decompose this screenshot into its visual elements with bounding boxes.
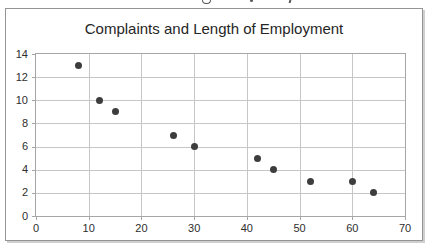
gridline-vertical [300, 54, 301, 216]
data-point [112, 108, 119, 115]
y-tick-label: 8 [2, 117, 28, 130]
x-tick-mark [36, 217, 37, 220]
data-point [349, 178, 356, 185]
x-tick-label: 60 [332, 222, 372, 234]
y-tick-label: 12 [2, 71, 28, 84]
x-tick-label: 30 [174, 222, 214, 234]
y-tick-mark [32, 123, 35, 124]
screenshot-canvas: Complaints and Length of Employment 0102… [0, 0, 431, 249]
x-tick-label: 50 [280, 222, 320, 234]
gridline-vertical [141, 54, 142, 216]
data-point [307, 178, 314, 185]
gridline-horizontal [36, 77, 405, 78]
text-descender-mark [289, 0, 292, 3]
y-tick-mark [32, 54, 35, 55]
data-point [254, 155, 261, 162]
data-point [75, 62, 82, 69]
y-tick-mark [32, 77, 35, 78]
y-tick-mark [32, 170, 35, 171]
y-tick-mark [32, 100, 35, 101]
y-tick-mark [32, 147, 35, 148]
y-tick-label: 2 [2, 186, 28, 199]
data-point [191, 143, 198, 150]
gridline-horizontal [36, 193, 405, 194]
x-tick-label: 10 [69, 222, 109, 234]
x-tick-mark [405, 217, 406, 220]
y-tick-label: 14 [2, 48, 28, 61]
gridline-horizontal [36, 147, 405, 148]
plot-area: 01020304050607002468101214 [35, 53, 406, 217]
y-tick-label: 10 [2, 94, 28, 107]
y-tick-label: 4 [2, 163, 28, 176]
x-tick-mark [352, 217, 353, 220]
x-tick-mark [194, 217, 195, 220]
gridline-vertical [89, 54, 90, 216]
x-tick-label: 40 [227, 222, 267, 234]
gridline-vertical [247, 54, 248, 216]
gridline-vertical [352, 54, 353, 216]
x-tick-label: 0 [16, 222, 56, 234]
y-tick-label: 0 [2, 210, 28, 223]
gridline-horizontal [36, 170, 405, 171]
x-tick-mark [141, 217, 142, 220]
x-tick-label: 70 [385, 222, 425, 234]
y-tick-mark [32, 216, 35, 217]
chart-title: Complaints and Length of Employment [6, 20, 422, 37]
data-point [170, 132, 177, 139]
data-point [370, 189, 377, 196]
data-point [270, 166, 277, 173]
x-tick-mark [247, 217, 248, 220]
gridline-vertical [194, 54, 195, 216]
gridline-horizontal [36, 123, 405, 124]
y-tick-mark [32, 193, 35, 194]
gridline-horizontal [36, 100, 405, 101]
x-tick-label: 20 [121, 222, 161, 234]
text-descender-mark [202, 0, 211, 4]
text-descender-mark [250, 0, 253, 2]
x-tick-mark [89, 217, 90, 220]
y-tick-label: 6 [2, 140, 28, 153]
x-tick-mark [300, 217, 301, 220]
data-point [96, 97, 103, 104]
chart-figure: Complaints and Length of Employment 0102… [5, 8, 423, 241]
